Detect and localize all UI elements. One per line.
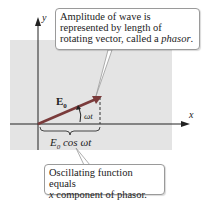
callout-bottom-line1: Oscillating function equals — [49, 167, 160, 189]
y-axis-label: y — [42, 12, 46, 23]
callout-bottom-line2: x component of phasor. — [49, 189, 160, 200]
x-axis-label: x — [189, 109, 193, 120]
callout-bottom-line2-rest: component of phasor. — [54, 189, 147, 200]
callout-top-line3-plain: rotating vector, called a — [60, 33, 161, 44]
projection-label-rest: cos ωt — [60, 136, 91, 148]
phasor-diagram: y x E0 ωt E0 cos ωt Amplitude of wave is… — [0, 0, 205, 204]
callout-top-line3: rotating vector, called a phasor. — [60, 33, 195, 44]
callout-top: Amplitude of wave is represented by leng… — [55, 8, 200, 50]
phasor-label-sub: 0 — [63, 102, 67, 110]
callout-top-line3-end: . — [191, 33, 194, 44]
y-axis-arrow-icon — [35, 17, 41, 26]
shaded-panel — [10, 40, 172, 150]
callout-top-line3-italic: phasor — [161, 33, 190, 44]
angle-label: ωt — [84, 111, 93, 121]
callout-top-line2: represented by length of — [60, 22, 195, 33]
projection-label-main: E — [50, 136, 57, 148]
callout-top-line1: Amplitude of wave is — [60, 11, 195, 22]
projection-label: E0 cos ωt — [50, 136, 91, 151]
phasor-label: E0 — [56, 95, 67, 110]
x-axis-arrow-icon — [181, 121, 190, 127]
callout-bottom: Oscillating function equals x component … — [44, 164, 165, 195]
